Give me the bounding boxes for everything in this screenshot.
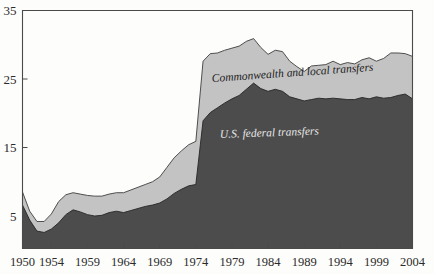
area-us-federal-transfers <box>23 83 413 248</box>
x-tick-label-1994: 1994 <box>328 255 354 269</box>
y-tick-label-15: 15 <box>4 140 17 155</box>
x-tick-label-1954: 1954 <box>39 255 65 269</box>
x-tick-label-1984: 1984 <box>256 255 282 269</box>
x-axis-tick-labels: 1950195419591964196919741979198419891994… <box>10 255 426 269</box>
y-tick-label-5: 5 <box>10 209 17 224</box>
x-tick-label-1969: 1969 <box>147 255 172 269</box>
x-tick-label-1974: 1974 <box>183 255 209 269</box>
x-tick-label-1950: 1950 <box>10 255 35 269</box>
chart-container: 3525155 19501954195919641969197419791984… <box>0 0 434 274</box>
y-axis-tick-labels: 3525155 <box>4 3 17 224</box>
x-tick-label-1964: 1964 <box>111 255 137 269</box>
x-tick-label-1979: 1979 <box>219 255 244 269</box>
y-tick-label-35: 35 <box>4 3 17 18</box>
x-tick-label-2004: 2004 <box>400 255 426 269</box>
x-tick-label-1959: 1959 <box>75 255 100 269</box>
stacked-area-chart: 3525155 19501954195919641969197419791984… <box>0 0 434 274</box>
x-tick-label-1999: 1999 <box>364 255 389 269</box>
y-tick-label-25: 25 <box>4 72 17 87</box>
x-tick-label-1989: 1989 <box>292 255 317 269</box>
